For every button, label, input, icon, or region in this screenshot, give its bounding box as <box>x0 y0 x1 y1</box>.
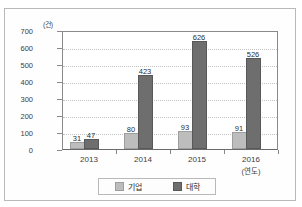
x-axis-label-2016: 2016 <box>231 155 271 164</box>
y-axis-tick-mark <box>57 133 62 134</box>
bar-대학-2013[interactable] <box>84 139 99 149</box>
data-label: 31 <box>73 134 81 143</box>
bar-group: 3147 <box>63 32 117 149</box>
bar-대학-2014[interactable] <box>138 75 153 149</box>
y-axis-tick-label: 700 <box>0 27 33 36</box>
y-axis-tick-label: 0 <box>0 146 33 155</box>
y-axis-tick-label: 500 <box>0 61 33 70</box>
data-label: 80 <box>127 125 135 134</box>
bar-기업-2016[interactable] <box>232 132 247 149</box>
chart-frame: (건) 3147804239362691526 기업대학 01002003004… <box>4 8 296 201</box>
x-axis-tick-mark <box>278 150 279 154</box>
legend-swatch-icon <box>115 182 124 191</box>
y-axis-unit-label: (건) <box>43 19 53 29</box>
bar-기업-2013[interactable] <box>70 142 85 149</box>
y-axis-tick-mark <box>57 65 62 66</box>
y-axis-tick-mark <box>57 82 62 83</box>
data-label: 47 <box>87 131 95 140</box>
x-axis-tick-mark <box>224 150 225 154</box>
bar-기업-2015[interactable] <box>178 131 193 149</box>
x-axis-tick-mark <box>170 150 171 154</box>
x-axis-label-2014: 2014 <box>123 155 163 164</box>
data-label: 626 <box>193 33 206 42</box>
bar-group: 80423 <box>117 32 171 149</box>
data-label: 93 <box>181 123 189 132</box>
bar-대학-2015[interactable] <box>192 41 207 149</box>
data-label: 91 <box>235 124 243 133</box>
bar-기업-2014[interactable] <box>124 133 139 149</box>
data-label: 423 <box>139 67 152 76</box>
plot-area: 3147804239362691526 <box>62 31 278 150</box>
bar-group: 93626 <box>171 32 225 149</box>
y-axis-tick-mark <box>57 116 62 117</box>
y-axis-tick-label: 300 <box>0 95 33 104</box>
y-axis-tick-label: 100 <box>0 129 33 138</box>
data-label: 526 <box>247 50 260 59</box>
y-axis-tick-mark <box>57 99 62 100</box>
y-axis-tick-mark <box>57 150 62 151</box>
bar-대학-2016[interactable] <box>246 58 261 149</box>
x-axis-unit-label: (연도) <box>231 165 271 176</box>
y-axis-tick-label: 200 <box>0 112 33 121</box>
legend-item-기업[interactable]: 기업 <box>115 181 142 192</box>
legend-item-대학[interactable]: 대학 <box>173 181 200 192</box>
y-axis-tick-label: 600 <box>0 44 33 53</box>
chart-legend: 기업대학 <box>98 178 216 195</box>
y-axis-tick-mark <box>57 31 62 32</box>
legend-label: 대학 <box>186 181 200 192</box>
x-axis-label-2013: 2013 <box>69 155 109 164</box>
x-axis-tick-mark <box>116 150 117 154</box>
legend-swatch-icon <box>173 182 182 191</box>
x-axis-label-2015: 2015 <box>177 155 217 164</box>
bar-group: 91526 <box>225 32 279 149</box>
y-axis-tick-mark <box>57 48 62 49</box>
legend-label: 기업 <box>128 181 142 192</box>
y-axis-tick-label: 400 <box>0 78 33 87</box>
